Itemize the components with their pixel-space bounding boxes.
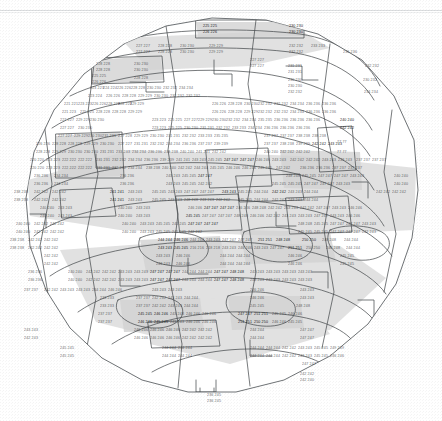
contour-label: 245 245 [314, 346, 328, 350]
contour-label: 242 242 [306, 158, 320, 162]
contour-label: 243 243 [168, 304, 182, 308]
contour-label: 243 243 [250, 278, 264, 282]
contour-label: 243 243 [266, 278, 280, 282]
contour-label: 245 245 [60, 354, 74, 358]
contour-label: 242 242 [280, 150, 294, 154]
contour-label: 237 237 [98, 312, 112, 316]
contour-label: 247 247 [204, 222, 218, 226]
contour-label: 234 234 [54, 182, 68, 186]
contour-label: 240 240 [340, 118, 354, 122]
contour-label: 241 241 [110, 190, 124, 194]
contour-label: 230 230 [88, 134, 102, 138]
contour-label: 238 238 [10, 246, 24, 250]
contour-label: 240 240 [118, 214, 132, 218]
contour-label: 223 223 [46, 158, 60, 162]
contour-label: 231 231 [166, 134, 180, 138]
contour-label: 239 239 [296, 142, 310, 146]
contour-label: 242 242 [50, 230, 64, 234]
contour-label: 242 242 [272, 198, 286, 202]
contour-label: 236 236 [182, 142, 196, 146]
contour-label: 242 242 [86, 278, 100, 282]
contour-label: 242 242 [182, 336, 196, 340]
contour-label: 244 244 [250, 346, 264, 350]
contour-label: 244 244 [198, 278, 212, 282]
contour-label: 243 243 [254, 246, 268, 250]
contour-label: 247 247 [222, 238, 236, 242]
contour-label: 245 245 [250, 304, 264, 308]
contour-label: 250 250 [306, 246, 320, 250]
contour-label: 243 243 [118, 270, 132, 274]
contour-label: 237 237 [280, 134, 294, 138]
contour-label: 242 242 [296, 150, 310, 154]
contour-label: 243 243 [168, 190, 182, 194]
contour-label: 243 243 [298, 346, 312, 350]
contour-label: 244 244 [236, 254, 250, 258]
contour-label: 243 243 [168, 198, 182, 202]
contour-label: 238 238 [312, 134, 326, 138]
contour-label: 227 227 [118, 142, 132, 146]
contour-label: 246 246 [134, 336, 148, 340]
contour-label: 244 244 [162, 346, 176, 350]
contour-label: 238 238 [10, 238, 24, 242]
contour-label: 230 230 [184, 126, 198, 130]
contour-label: 242 242 [312, 142, 326, 146]
contour-label: 229 229 [76, 118, 90, 122]
contour-label: 247 247 [166, 278, 180, 282]
contour-label: 243 243 [328, 142, 342, 146]
contour-label: 240 240 [122, 222, 136, 226]
contour-label: 245 245 [182, 182, 196, 186]
contour-label: 242 243 [24, 336, 38, 340]
contour-label: 245 245 [172, 222, 186, 226]
contour-label: 245 245 [288, 320, 302, 324]
contour-label: 234 234 [290, 102, 304, 106]
contour-label: 233 233 [198, 134, 212, 138]
contour-label: 242 242 [300, 372, 314, 376]
contour-label: 240 240 [16, 222, 30, 226]
contour-label: 234 234 [248, 126, 262, 130]
contour-label: 242 242 [188, 230, 202, 234]
contour-label: 244 244 [266, 354, 280, 358]
contour-label: 234 234 [179, 86, 193, 90]
contour-label: 243 243 [60, 288, 74, 292]
contour-label: 246 246 [226, 166, 240, 170]
contour-label: 230 230 [134, 62, 148, 66]
contour-label: 233 233 [100, 304, 114, 308]
contour-label: 244 244 [182, 270, 196, 274]
contour-label: 246 246 [166, 328, 180, 332]
contour-label: 225 225 [168, 126, 182, 130]
contour-label: 246 246 [236, 206, 250, 210]
contour-label: 236 236 [274, 118, 288, 122]
contour-label: 244 244 [190, 238, 204, 242]
contour-label: 232 232 [112, 166, 126, 170]
contour-label: 246 246 [256, 158, 270, 162]
contour-label: 242 242 [216, 198, 230, 202]
contour-label: 232 232 [258, 102, 272, 106]
contour-label: 231 231 [288, 64, 302, 68]
contour-label: 246 246 [176, 254, 190, 258]
contour-label: 232 232 [289, 44, 303, 48]
contour-label: 244 244 [178, 346, 192, 350]
contour-label: 221 223 [62, 110, 76, 114]
contour-label: 238 238 [296, 134, 310, 138]
contour-label: 247 247 [346, 222, 360, 226]
contour-label: 243 243 [330, 214, 344, 218]
contour-label: 232 232 [289, 50, 303, 54]
contour-label: 243 243 [288, 190, 302, 194]
contour-label: 243 243 [168, 288, 182, 292]
contour-label: 246 246 [202, 320, 216, 324]
contour-label: 230 230 [180, 50, 194, 54]
contour-label: 247 247 [304, 182, 318, 186]
contour-label: 244 244 [178, 354, 192, 358]
contour-label: 216 216 [190, 246, 204, 250]
contour-label: 245 245 [302, 174, 316, 178]
contour-label: 230 230 [147, 86, 161, 90]
contour-label: 247 247 [334, 174, 348, 178]
contour-label: 247 247 [150, 278, 164, 282]
contour-label: 240 240 [118, 206, 132, 210]
contour-label: 235 235 [258, 118, 272, 122]
contour-label: 245 245 [208, 158, 222, 162]
contour-label: 247 247 [198, 174, 212, 178]
contour-label: 247 247 [214, 278, 228, 282]
contour-label: 248 248 [322, 238, 336, 242]
contour-label: 245 245 [174, 246, 188, 250]
